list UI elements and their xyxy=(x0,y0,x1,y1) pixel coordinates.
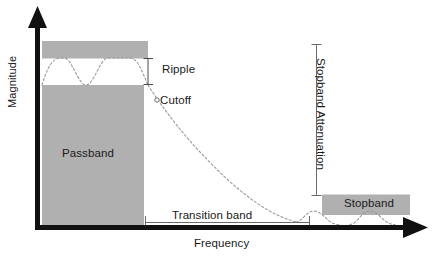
y-axis-label: Magnitude xyxy=(7,38,18,108)
magnitude-response-curve-passband xyxy=(42,58,148,85)
diagram-canvas xyxy=(0,0,437,265)
cutoff-label: Cutoff xyxy=(160,95,191,107)
passband-label: Passband xyxy=(62,148,114,160)
ripple-measure-bracket xyxy=(144,58,154,85)
transition-band-label: Transition band xyxy=(172,210,252,222)
passband-upper-tolerance-band xyxy=(42,41,148,59)
ripple-label: Ripple xyxy=(162,64,195,76)
stopband-label: Stopband xyxy=(344,198,394,210)
x-axis-label: Frequency xyxy=(194,238,249,250)
cutoff-marker-icon xyxy=(155,98,159,102)
stopband-attenuation-label: Stopband Attenuation xyxy=(315,58,327,170)
filter-response-diagram: Magnitude Frequency Passband Ripple Cuto… xyxy=(0,0,437,265)
